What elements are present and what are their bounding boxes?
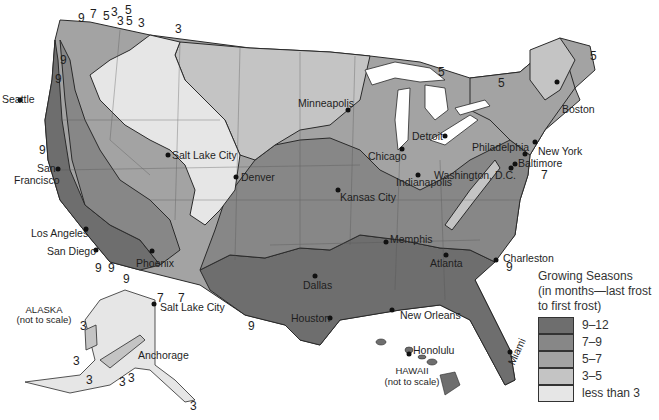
legend-title-line: (in months—last frost <box>538 284 659 299</box>
legend-item-5-7: 5–7 <box>538 351 658 368</box>
legend-swatch <box>538 334 574 351</box>
city-label-dallas: Dallas <box>303 280 332 291</box>
city-label-atlanta: Atlanta <box>430 258 463 269</box>
legend-label: 7–9 <box>582 336 602 349</box>
city-label-chicago: Chicago <box>368 151 407 162</box>
contour-label: 3 <box>175 23 182 35</box>
city-label-kansas-city: Kansas City <box>340 192 396 203</box>
city-label-new-orleans: New Orleans <box>400 310 461 321</box>
contour-label: 7 <box>541 169 548 181</box>
legend-item-less-than-3: less than 3 <box>538 385 658 402</box>
city-label-honolulu: Honolulu <box>413 345 454 356</box>
zone-9-12-south <box>200 235 515 385</box>
contour-label: 9 <box>78 12 85 24</box>
city-label-philadelphia: Philadelphia <box>472 142 529 153</box>
legend-title-line: to first frost) <box>538 299 659 314</box>
city-label-minneapolis: Minneapolis <box>298 98 354 109</box>
legend-label: less than 3 <box>582 387 640 400</box>
contour-label: 5 <box>438 66 445 78</box>
contour-label: 5 <box>126 15 133 27</box>
legend-label: 5–7 <box>582 353 602 366</box>
contour-label: 9 <box>123 273 130 285</box>
city-label-san-francisco-1: San <box>37 163 56 174</box>
legend-label: 9–12 <box>582 319 609 332</box>
alaska-note: (not to scale) <box>14 314 74 325</box>
contour-label: 3 <box>117 15 124 27</box>
contour-label: 7 <box>157 292 164 304</box>
legend-item-3-5: 3–5 <box>538 368 658 385</box>
legend-title-line: Growing Seasons <box>538 269 659 284</box>
city-label-memphis: Memphis <box>390 234 433 245</box>
city-label-san-diego: San Diego <box>47 246 96 257</box>
contour-label: 5 <box>498 77 505 89</box>
contour-label: 3 <box>80 320 87 332</box>
city-label-los-angeles: Los Angeles <box>31 228 88 239</box>
contour-label: 9 <box>108 262 115 274</box>
contour-label: 5 <box>590 50 597 62</box>
contour-label: 9 <box>248 320 255 332</box>
legend-swatch <box>538 368 574 385</box>
contour-label: 9 <box>60 54 67 66</box>
contour-label: 5 <box>103 10 110 22</box>
city-label-anchorage: Anchorage <box>138 350 189 361</box>
city-label-houston: Houston <box>291 313 330 324</box>
legend-swatch <box>538 317 574 334</box>
contour-label: 7 <box>90 8 97 20</box>
legend-swatch <box>538 385 574 402</box>
contour-label: 3 <box>138 17 145 29</box>
city-label-washington-dc: Washington, D.C. <box>434 170 516 181</box>
city-label-boston: Boston <box>562 104 595 115</box>
legend-item-9-12: 9–12 <box>538 317 658 334</box>
legend-swatch <box>538 351 574 368</box>
city-label-phoenix: Phoenix <box>136 258 174 269</box>
contour-label: 3 <box>190 400 197 412</box>
city-label-denver: Denver <box>241 172 275 183</box>
hawaii-title: HAWAII <box>382 365 442 376</box>
contour-label: 9 <box>39 144 46 156</box>
contour-label: 9 <box>506 261 513 273</box>
hawaii-note: (not to scale) <box>372 376 452 387</box>
contour-label: 3 <box>73 355 80 367</box>
legend-title: Growing Seasons (in months—last frost to… <box>538 269 659 314</box>
city-label-detroit: Detroit <box>412 131 443 142</box>
legend-label: 3–5 <box>582 370 602 383</box>
city-label-salt-lake-city-inset: Salt Lake City <box>160 302 225 313</box>
city-label-seattle: Seattle <box>2 94 35 105</box>
contour-label: 3 <box>86 374 93 386</box>
legend-item-7-9: 7–9 <box>538 334 658 351</box>
contour-label: 3 <box>128 372 135 384</box>
city-label-salt-lake-city: Salt Lake City <box>172 150 237 161</box>
city-label-new-york: New York <box>538 146 582 157</box>
contour-label: 7 <box>178 292 185 304</box>
city-label-san-francisco-2: Francisco <box>14 175 60 186</box>
contour-label: 9 <box>55 73 62 85</box>
contour-label: 3 <box>119 376 126 388</box>
contour-label: 9 <box>95 262 102 274</box>
